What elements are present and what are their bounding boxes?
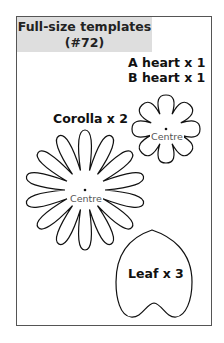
small-centre-label: Centre	[150, 131, 184, 142]
small-centre-dot	[165, 128, 168, 131]
template-shapes	[0, 0, 224, 343]
large-centre-dot	[84, 189, 87, 192]
corolla-label: Corolla x 2	[53, 111, 128, 126]
large-centre-label: Centre	[69, 193, 103, 204]
a-heart-label: A heart x 1	[128, 55, 205, 70]
leaf-label: Leaf x 3	[128, 266, 184, 281]
b-heart-label: B heart x 1	[128, 70, 205, 85]
